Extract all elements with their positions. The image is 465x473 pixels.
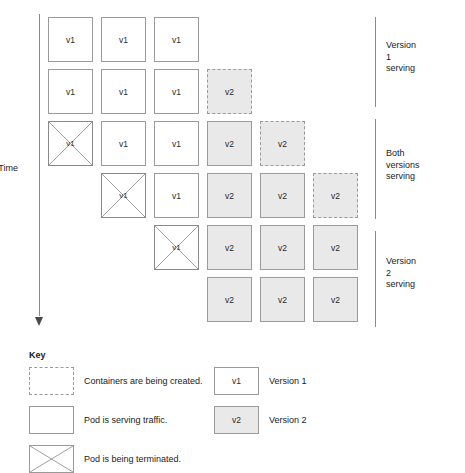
pod-version-label: v2 bbox=[225, 191, 234, 201]
pod-version-label: v1 bbox=[172, 87, 181, 97]
phase-label: Version 1 serving bbox=[386, 40, 416, 75]
key-label-creating: Containers are being created. bbox=[84, 376, 203, 386]
pod-box-terminating-v1: v1 bbox=[101, 173, 146, 218]
pod-version-label: v2 bbox=[278, 243, 287, 253]
pod-box-serving-v2: v2 bbox=[207, 277, 252, 322]
pod-version-label: v1 bbox=[172, 243, 180, 252]
pod-version-label: v1 bbox=[119, 191, 127, 200]
pod-box-serving-v2: v2 bbox=[260, 173, 305, 218]
pod-box-serving-v2: v2 bbox=[260, 277, 305, 322]
pod-version-label: v1 bbox=[119, 35, 128, 45]
pod-box-serving-v1: v1 bbox=[154, 17, 199, 62]
key-label-version-2: Version 2 bbox=[269, 415, 307, 425]
pod-version-label: v2 bbox=[278, 139, 287, 149]
key-swatch-creating bbox=[29, 367, 74, 395]
pod-version-label: v2 bbox=[225, 87, 234, 97]
pod-version-label: v1 bbox=[119, 87, 128, 97]
pod-box-serving-v2: v2 bbox=[207, 173, 252, 218]
pod-box-serving-v2: v2 bbox=[313, 277, 358, 322]
pod-box-creating-v2: v2 bbox=[260, 121, 305, 166]
time-axis bbox=[33, 14, 47, 326]
phase-label: Both versions serving bbox=[386, 148, 420, 183]
key-row-version-1: v1Version 1 bbox=[214, 367, 404, 395]
pod-box-serving-v2: v2 bbox=[313, 225, 358, 270]
pod-version-label: v2 bbox=[225, 139, 234, 149]
pod-box-serving-v1: v1 bbox=[154, 121, 199, 166]
pod-row: v1v1v2v2v2 bbox=[48, 173, 358, 218]
pod-box-serving-v1: v1 bbox=[101, 121, 146, 166]
pod-box-serving-v1: v1 bbox=[154, 173, 199, 218]
pod-box-creating-v2: v2 bbox=[313, 173, 358, 218]
phase-bracket-line bbox=[375, 17, 376, 107]
pod-version-label: v1 bbox=[66, 139, 74, 148]
key-row-version-2: v2Version 2 bbox=[214, 406, 404, 434]
key-title: Key bbox=[29, 350, 46, 360]
pod-version-label: v2 bbox=[331, 295, 340, 305]
pod-version-label: v2 bbox=[278, 191, 287, 201]
pod-box-serving-v1: v1 bbox=[48, 69, 93, 114]
pod-row: v1v1v1 bbox=[48, 17, 358, 62]
time-axis-label: Time bbox=[0, 163, 18, 173]
key-label-terminating: Pod is being terminated. bbox=[84, 454, 181, 464]
phase-bracket-line bbox=[375, 231, 376, 327]
key-swatch-terminating bbox=[29, 445, 74, 473]
pod-box-serving-v1: v1 bbox=[48, 17, 93, 62]
pod-box-serving-v1: v1 bbox=[101, 69, 146, 114]
key-row-terminating: Pod is being terminated. bbox=[29, 445, 239, 473]
pod-version-label: v2 bbox=[331, 191, 340, 201]
pod-rollout-grid: v1v1v1v1v1v1v2v1v1v1v2v2v1v1v2v2v2v1v2v2… bbox=[48, 17, 358, 327]
pod-version-label: v1 bbox=[172, 35, 181, 45]
key-version-badge: v1 bbox=[232, 376, 241, 386]
pod-version-label: v2 bbox=[278, 295, 287, 305]
key-row-serving: Pod is serving traffic. bbox=[29, 406, 239, 434]
pod-box-serving-v2: v2 bbox=[260, 225, 305, 270]
key-swatch-version-1: v1 bbox=[214, 367, 259, 395]
key-swatch-serving bbox=[29, 406, 74, 434]
key-label-version-1: Version 1 bbox=[269, 376, 307, 386]
pod-box-serving-v2: v2 bbox=[207, 121, 252, 166]
pod-box-terminating-v1: v1 bbox=[154, 225, 199, 270]
time-axis-arrowhead bbox=[35, 317, 43, 326]
pod-version-label: v1 bbox=[119, 139, 128, 149]
time-axis-line bbox=[39, 14, 40, 316]
pod-version-label: v2 bbox=[225, 295, 234, 305]
pod-box-serving-v1: v1 bbox=[101, 17, 146, 62]
key-version-badge: v2 bbox=[232, 415, 241, 425]
pod-version-label: v2 bbox=[331, 243, 340, 253]
phase-bracket-line bbox=[375, 119, 376, 219]
pod-version-label: v1 bbox=[172, 139, 181, 149]
pod-box-serving-v1: v1 bbox=[154, 69, 199, 114]
key-row-creating: Containers are being created. bbox=[29, 367, 239, 395]
pod-row: v1v1v1v2 bbox=[48, 69, 358, 114]
pod-row: v1v2v2v2 bbox=[48, 225, 358, 270]
pod-box-serving-v2: v2 bbox=[207, 225, 252, 270]
pod-box-terminating-v1: v1 bbox=[48, 121, 93, 166]
phase-label: Version 2 serving bbox=[386, 256, 416, 291]
key-label-serving: Pod is serving traffic. bbox=[84, 415, 167, 425]
pod-version-label: v1 bbox=[66, 87, 75, 97]
key-swatch-version-2: v2 bbox=[214, 406, 259, 434]
pod-row: v1v1v1v2v2 bbox=[48, 121, 358, 166]
pod-box-creating-v2: v2 bbox=[207, 69, 252, 114]
pod-version-label: v1 bbox=[66, 35, 75, 45]
pod-version-label: v2 bbox=[225, 243, 234, 253]
pod-row: v2v2v2 bbox=[48, 277, 358, 322]
pod-version-label: v1 bbox=[172, 191, 181, 201]
